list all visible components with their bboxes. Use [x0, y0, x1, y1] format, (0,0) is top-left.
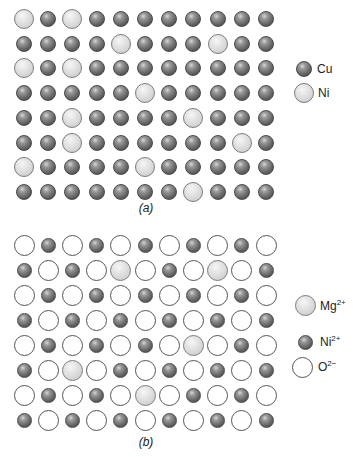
- cu-atom: [40, 159, 56, 175]
- cu-atom: [258, 85, 274, 101]
- caption-b: (b): [139, 435, 154, 449]
- ni-atom: [232, 133, 252, 153]
- ni2--atom: [89, 238, 104, 253]
- ni2--atom: [259, 263, 274, 278]
- cu-atom: [161, 159, 177, 175]
- mg2--atom: [207, 260, 228, 281]
- cu-atom: [137, 135, 153, 151]
- cu-atom: [16, 110, 32, 126]
- cu-atom: [89, 85, 105, 101]
- legend-label-mg: Mg2+: [320, 300, 346, 312]
- o2--atom: [62, 235, 83, 256]
- cu-atom: [185, 135, 201, 151]
- o2--atom: [183, 260, 204, 281]
- cu-atom: [234, 60, 250, 76]
- o2--atom: [256, 235, 277, 256]
- mg2--atom: [135, 385, 156, 406]
- ni2--atom: [186, 388, 201, 403]
- o2--atom: [207, 385, 228, 406]
- o2--atom: [14, 385, 35, 406]
- cu-atom: [161, 36, 177, 52]
- o2--atom: [110, 335, 131, 356]
- o2--atom: [207, 235, 228, 256]
- cu-atom: [210, 184, 226, 200]
- ni2--atom: [89, 338, 104, 353]
- cu-atom: [137, 60, 153, 76]
- cu-atom: [137, 110, 153, 126]
- o2--atom: [86, 410, 107, 431]
- o2--atom: [231, 410, 252, 431]
- cu-atom: [113, 60, 129, 76]
- cu-atom: [89, 110, 105, 126]
- ni-atom: [14, 9, 34, 29]
- caption-a: (a): [139, 201, 154, 215]
- cu-atom: [89, 36, 105, 52]
- ni2--atom: [113, 413, 128, 428]
- cu-atom: [40, 36, 56, 52]
- cu-atom: [137, 11, 153, 27]
- o2--atom: [86, 310, 107, 331]
- ni2--atom: [259, 363, 274, 378]
- ni-atom: [111, 34, 131, 54]
- cu-atom: [258, 60, 274, 76]
- cu-atom: [64, 159, 80, 175]
- cu-atom: [258, 36, 274, 52]
- o2--atom: [86, 360, 107, 381]
- cu-atom: [258, 159, 274, 175]
- o2--atom: [110, 385, 131, 406]
- ni2--atom: [234, 338, 249, 353]
- cu-atom: [234, 159, 250, 175]
- o2--atom: [38, 410, 59, 431]
- ni2--atom: [210, 413, 225, 428]
- cu-atom: [185, 85, 201, 101]
- cu-atom-icon: [296, 61, 312, 77]
- cu-atom: [185, 36, 201, 52]
- cu-atom: [210, 60, 226, 76]
- o2--atom: [159, 385, 180, 406]
- o2--atom: [14, 235, 35, 256]
- cu-atom: [89, 60, 105, 76]
- cu-atom: [210, 110, 226, 126]
- o2--atom: [256, 285, 277, 306]
- ni-atom: [183, 108, 203, 128]
- ni2--atom: [89, 288, 104, 303]
- cu-atom: [16, 135, 32, 151]
- ni2--atom: [17, 263, 32, 278]
- cu-atom: [210, 11, 226, 27]
- ni2--atom: [65, 313, 80, 328]
- cu-atom: [161, 60, 177, 76]
- ni-atom: [183, 182, 203, 202]
- ni2--atom: [162, 363, 177, 378]
- ni2--atom: [234, 288, 249, 303]
- cu-atom: [40, 11, 56, 27]
- o2--atom: [231, 360, 252, 381]
- ni-atom: [135, 83, 155, 103]
- o2--atom: [159, 285, 180, 306]
- ni2--atom: [113, 363, 128, 378]
- ni2--atom: [89, 388, 104, 403]
- mg2--atom: [183, 335, 204, 356]
- o2--atom: [62, 385, 83, 406]
- cu-atom: [16, 36, 32, 52]
- o2--atom: [14, 335, 35, 356]
- o2--atom: [159, 335, 180, 356]
- o2--atom: [62, 335, 83, 356]
- ni2--atom: [17, 363, 32, 378]
- ni2--atom: [65, 263, 80, 278]
- o2--atom: [256, 385, 277, 406]
- cu-atom: [40, 135, 56, 151]
- cu-atom: [234, 110, 250, 126]
- cu-atom: [234, 184, 250, 200]
- cu-atom: [185, 60, 201, 76]
- o2--atom: [86, 260, 107, 281]
- ni-atom: [135, 157, 155, 177]
- o2--atom: [159, 235, 180, 256]
- cu-atom: [161, 85, 177, 101]
- ni-atom: [14, 58, 34, 78]
- ni2--atom: [234, 388, 249, 403]
- cu-atom: [113, 11, 129, 27]
- o2--atom: [183, 310, 204, 331]
- o-ion-icon: [292, 357, 313, 378]
- o2--atom: [38, 310, 59, 331]
- mg-ion-icon: [295, 295, 316, 316]
